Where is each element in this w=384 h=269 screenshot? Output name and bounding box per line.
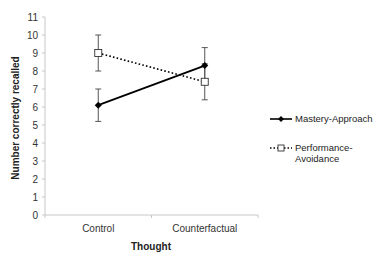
legend: Mastery-Approach Performance- Avoidance bbox=[270, 113, 373, 164]
y-tick-label: 2 bbox=[32, 174, 38, 185]
legend-label: Performance- bbox=[295, 142, 353, 153]
square-marker bbox=[95, 50, 102, 57]
legend-item-performance-avoidance: Performance- Avoidance bbox=[270, 142, 353, 164]
series-line bbox=[98, 53, 205, 82]
y-axis: 01234567891011 bbox=[27, 12, 45, 221]
line-chart: 01234567891011 ControlCounterfactual Num… bbox=[0, 0, 384, 269]
legend-label-cont: Avoidance bbox=[295, 153, 339, 164]
y-tick-label: 11 bbox=[28, 12, 39, 23]
legend-item-mastery-approach: Mastery-Approach bbox=[270, 113, 373, 124]
y-tick-label: 7 bbox=[32, 84, 38, 95]
series-layer bbox=[95, 35, 209, 121]
y-tick-label: 9 bbox=[32, 48, 38, 59]
diamond-marker-icon bbox=[278, 116, 284, 122]
legend-label: Mastery-Approach bbox=[295, 113, 373, 124]
y-tick-label: 5 bbox=[32, 120, 38, 131]
y-tick-label: 8 bbox=[32, 66, 38, 77]
y-tick-label: 0 bbox=[32, 210, 38, 221]
diamond-marker bbox=[201, 62, 208, 69]
diamond-marker bbox=[95, 102, 102, 109]
x-axis: ControlCounterfactual bbox=[45, 215, 258, 234]
x-tick-label: Control bbox=[82, 223, 114, 234]
series-line bbox=[98, 66, 205, 106]
x-tick-label: Counterfactual bbox=[172, 223, 237, 234]
square-marker-icon bbox=[278, 145, 284, 151]
x-axis-title: Thought bbox=[131, 241, 172, 252]
y-tick-label: 3 bbox=[32, 156, 38, 167]
y-tick-label: 1 bbox=[32, 192, 38, 203]
y-tick-label: 4 bbox=[32, 138, 38, 149]
y-axis-title: Number correctly recalled bbox=[10, 56, 21, 179]
y-tick-label: 6 bbox=[32, 102, 38, 113]
y-tick-label: 10 bbox=[27, 30, 39, 41]
square-marker bbox=[201, 78, 208, 85]
